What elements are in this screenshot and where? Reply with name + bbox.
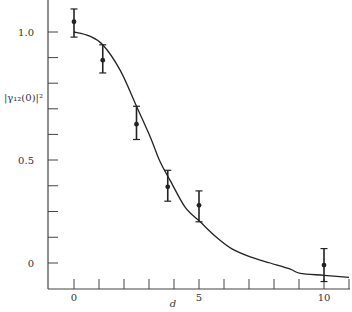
- y-tick-label: 1.0: [18, 27, 34, 38]
- data-marker: [72, 19, 77, 24]
- chart-canvas: 1.00.500510 d |γ₁₂(0)|²: [0, 0, 352, 312]
- data-points: [71, 9, 328, 282]
- data-marker: [197, 203, 202, 208]
- data-marker: [165, 184, 170, 189]
- x-tick-label: 5: [196, 292, 202, 303]
- data-point: [196, 191, 203, 222]
- y-tick-label: 0: [28, 258, 34, 269]
- data-point: [164, 170, 171, 201]
- x-tick-label: 0: [71, 292, 77, 303]
- y-tick-label: 0.5: [18, 155, 34, 166]
- data-marker: [134, 122, 139, 127]
- data-point: [99, 45, 106, 73]
- axes: 1.00.500510: [18, 0, 350, 303]
- y-axis-title: |γ₁₂(0)|²: [4, 92, 43, 104]
- x-tick-label: 10: [318, 292, 331, 303]
- theory-curve-path: [74, 32, 349, 277]
- data-marker: [322, 263, 327, 268]
- theory-curve: [74, 32, 349, 277]
- x-axis-title: d: [170, 298, 176, 309]
- data-point: [321, 249, 328, 282]
- data-marker: [100, 58, 105, 63]
